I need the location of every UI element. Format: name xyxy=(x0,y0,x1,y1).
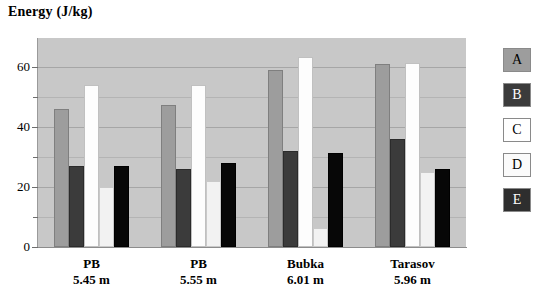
y-tick-50 xyxy=(33,97,38,98)
category-name-1: PB xyxy=(37,256,147,272)
category-label-4: Tarasov5.96 m xyxy=(358,256,468,289)
category-sublabel-3: 6.01 m xyxy=(251,272,361,288)
y-axis-label-20: 20 xyxy=(2,180,30,193)
x-axis-line xyxy=(37,247,467,248)
bar-C-group-3 xyxy=(298,57,313,248)
bar-D-group-2 xyxy=(206,181,221,247)
bar-B-group-2 xyxy=(176,169,191,247)
bars-layer xyxy=(38,38,466,247)
bar-E-group-1 xyxy=(114,166,129,247)
bar-E-group-2 xyxy=(221,163,236,247)
legend-label-e: E xyxy=(513,193,522,207)
bar-C-group-2 xyxy=(191,85,206,247)
bar-A-group-1 xyxy=(54,109,69,247)
y-tick-60 xyxy=(32,67,38,68)
y-tick-40 xyxy=(32,127,38,128)
bar-E-group-4 xyxy=(435,169,450,247)
plot-area xyxy=(38,38,466,247)
category-sublabel-4: 5.96 m xyxy=(358,272,468,288)
y-tick-0 xyxy=(32,247,38,248)
y-tick-20 xyxy=(32,187,38,188)
chart-title: Energy (J/kg) xyxy=(8,4,93,20)
chart-legend: ABCDE xyxy=(503,48,537,223)
legend-item-e[interactable]: E xyxy=(503,188,531,212)
y-axis-label-0: 0 xyxy=(2,240,30,253)
legend-item-a[interactable]: A xyxy=(503,48,531,72)
bar-A-group-2 xyxy=(161,105,176,248)
category-sublabel-1: 5.45 m xyxy=(37,272,147,288)
legend-item-d[interactable]: D xyxy=(503,153,531,177)
category-name-4: Tarasov xyxy=(358,256,468,272)
bar-A-group-3 xyxy=(268,70,283,247)
bar-C-group-1 xyxy=(84,85,99,247)
bar-B-group-1 xyxy=(69,166,84,247)
bar-D-group-1 xyxy=(99,187,114,247)
category-sublabel-2: 5.55 m xyxy=(144,272,254,288)
bar-A-group-4 xyxy=(375,64,390,247)
y-tick-10 xyxy=(33,217,38,218)
y-axis-label-40: 40 xyxy=(2,120,30,133)
bar-B-group-3 xyxy=(283,151,298,247)
y-axis-label-60: 60 xyxy=(2,60,30,73)
bar-D-group-3 xyxy=(313,228,328,248)
category-name-2: PB xyxy=(144,256,254,272)
category-label-3: Bubka6.01 m xyxy=(251,256,361,289)
bar-C-group-4 xyxy=(405,63,420,248)
legend-item-b[interactable]: B xyxy=(503,83,531,107)
y-tick-30 xyxy=(33,157,38,158)
legend-item-c[interactable]: C xyxy=(503,118,531,142)
legend-label-d: D xyxy=(512,158,522,172)
category-label-1: PB5.45 m xyxy=(37,256,147,289)
bar-E-group-3 xyxy=(328,153,343,248)
bar-B-group-4 xyxy=(390,139,405,247)
category-name-3: Bubka xyxy=(251,256,361,272)
legend-label-c: C xyxy=(512,123,521,137)
category-label-2: PB5.55 m xyxy=(144,256,254,289)
energy-bar-chart: Energy (J/kg) 6040200 PB5.45 mPB5.55 mBu… xyxy=(0,0,543,304)
legend-label-b: B xyxy=(512,88,521,102)
bar-D-group-4 xyxy=(420,172,435,247)
legend-label-a: A xyxy=(512,53,522,67)
